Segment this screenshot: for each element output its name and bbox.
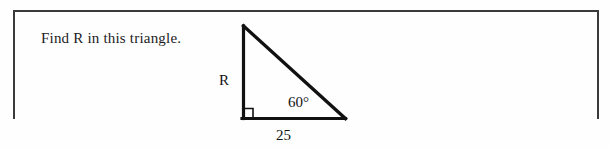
- triangle-svg: [0, 0, 610, 150]
- label-angle-60-degrees: 60°: [288, 94, 309, 111]
- worksheet-page: Find R in this triangle. R 60° 25: [0, 0, 610, 150]
- label-base-length-25: 25: [276, 127, 291, 144]
- label-unknown-side-r: R: [219, 72, 229, 89]
- triangle-figure: [0, 0, 610, 150]
